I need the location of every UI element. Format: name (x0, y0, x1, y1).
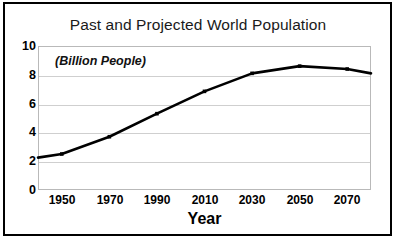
y-tick-label-6: 6 (2, 98, 36, 111)
x-tick-label-1950: 1950 (39, 193, 85, 207)
gridline-2 (39, 162, 370, 163)
x-tick-label-2030: 2030 (229, 193, 275, 207)
x-axis-labels: 1950 1970 1990 2010 2030 2050 2070 (0, 193, 396, 211)
gridline-8 (39, 76, 370, 77)
x-tick-label-2070: 2070 (324, 193, 370, 207)
y-tick-label-4: 4 (2, 126, 36, 139)
x-tick-label-1970: 1970 (87, 193, 133, 207)
units-annotation: (Billion People) (55, 54, 146, 68)
x-tick-label-1990: 1990 (134, 193, 180, 207)
y-tick-label-10: 10 (2, 40, 36, 53)
y-tick-label-2: 2 (2, 155, 36, 168)
chart-page: Past and Projected World Population (Bil… (0, 0, 396, 240)
y-tick-label-8: 8 (2, 69, 36, 82)
chart-title: Past and Projected World Population (0, 16, 396, 34)
x-axis-title: Year (38, 210, 371, 228)
gridline-4 (39, 133, 370, 134)
x-tick-label-2050: 2050 (277, 193, 323, 207)
x-tick-label-2010: 2010 (182, 193, 228, 207)
gridline-6 (39, 105, 370, 106)
